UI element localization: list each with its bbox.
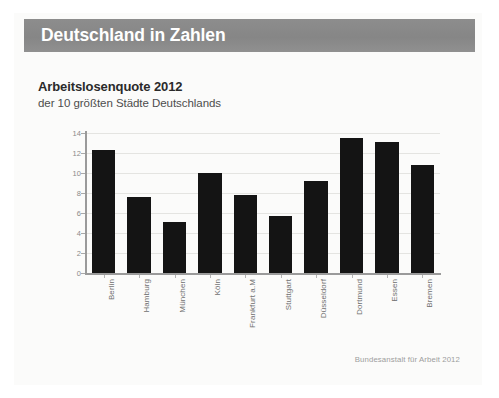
x-axis-label: Köln: [213, 279, 222, 295]
x-axis-label: München: [178, 279, 187, 313]
bar: [269, 216, 292, 273]
x-axis-label: Düsseldorf: [319, 279, 328, 318]
scan-margin-right: [482, 0, 499, 398]
x-axis-tick-mark: [175, 275, 176, 278]
bar: [234, 195, 257, 273]
source-credit: Bundesanstalt für Arbeit 2012: [355, 355, 460, 364]
bar-chart-plot: [86, 133, 440, 273]
page-background: Deutschland in Zahlen Arbeitslosenquote …: [0, 0, 499, 398]
bar: [127, 197, 150, 273]
x-axis-tick-mark: [422, 275, 423, 278]
x-axis-label: Berlin: [107, 279, 116, 300]
chart-subtitle: der 10 größten Städte Deutschlands: [38, 97, 221, 109]
x-axis-tick-mark: [352, 275, 353, 278]
bar: [375, 142, 398, 273]
scan-margin-left: [0, 0, 14, 398]
bar: [198, 173, 221, 273]
y-axis-tick-label: 2: [53, 249, 81, 258]
y-axis-tick-label: 14: [53, 129, 81, 138]
x-axis-tick-mark: [281, 275, 282, 278]
chart-title: Arbeitslosenquote 2012: [38, 79, 182, 94]
bar: [340, 138, 363, 273]
x-axis-tick-mark: [210, 275, 211, 278]
y-axis-tick-label: 0: [53, 269, 81, 278]
x-axis-label: Frankfurt a.M: [248, 279, 257, 328]
x-axis-label: Hamburg: [142, 279, 151, 313]
y-axis-tick-label: 8: [53, 189, 81, 198]
y-axis-tick-label: 10: [53, 169, 81, 178]
y-axis-tick-label: 6: [53, 209, 81, 218]
x-axis-label: Essen: [390, 279, 399, 302]
x-axis-tick-mark: [245, 275, 246, 278]
x-axis-tick-mark: [139, 275, 140, 278]
bar: [304, 181, 327, 273]
y-axis-tick-label: 12: [53, 149, 81, 158]
scan-margin-bottom: [0, 385, 499, 398]
bar: [163, 222, 186, 273]
scan-margin-top: [0, 0, 499, 13]
x-axis-label: Stuttgart: [284, 279, 293, 310]
x-axis-tick-mark: [104, 275, 105, 278]
page-title: Deutschland in Zahlen: [41, 25, 226, 46]
x-axis-tick-mark: [316, 275, 317, 278]
bar: [411, 165, 434, 273]
x-axis-tick-mark: [387, 275, 388, 278]
x-axis-label: Dortmund: [355, 279, 364, 315]
x-axis-label: Bremen: [425, 279, 434, 308]
y-axis-tick-label: 4: [53, 229, 81, 238]
bar: [92, 150, 115, 273]
